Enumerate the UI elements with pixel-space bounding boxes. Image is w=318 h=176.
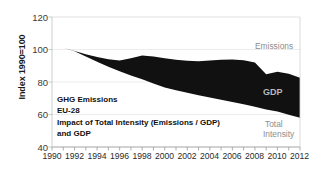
- annotation-line-2: EU-28: [57, 105, 220, 116]
- chart-annotation: GHG Emissions EU-28 Impact of Total Inte…: [57, 94, 220, 140]
- annotation-line-3: Impact of Total Intensity (Emissions / G…: [57, 117, 220, 128]
- x-axis-tickmarks: [52, 147, 300, 151]
- x-tick-label-1994: 1994: [87, 151, 106, 161]
- series-label-total-intensity-line2: Intensity: [263, 129, 294, 139]
- annotation-line-1: GHG Emissions: [57, 94, 220, 105]
- annotation-line-4: and GDP: [57, 128, 220, 139]
- chart-container: Index 1990=100 120 100 80 60 40: [0, 0, 318, 176]
- series-label-gdp: GDP: [263, 87, 283, 97]
- x-tick-label-1992: 1992: [65, 151, 84, 161]
- x-tick-label-2002: 2002: [177, 151, 196, 161]
- x-tick-label-1996: 1996: [110, 151, 129, 161]
- x-tick-label-2008: 2008: [245, 151, 264, 161]
- x-tick-label-2006: 2006: [222, 151, 241, 161]
- series-label-emissions: Emissions: [255, 41, 293, 51]
- x-tick-label-2010: 2010: [267, 151, 286, 161]
- x-tick-label-2000: 2000: [155, 151, 174, 161]
- x-tick-label-2012: 2012: [290, 151, 309, 161]
- x-tick-label-2004: 2004: [200, 151, 219, 161]
- series-label-total-intensity-line1: Total: [265, 119, 283, 129]
- x-tick-label-1998: 1998: [132, 151, 151, 161]
- y-axis-tickmarks: [49, 17, 53, 147]
- x-tick-label-1990: 1990: [42, 151, 61, 161]
